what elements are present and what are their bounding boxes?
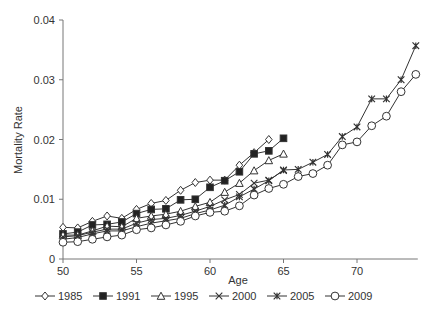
circle-marker bbox=[74, 238, 82, 246]
triangle-marker bbox=[265, 157, 273, 164]
circle-marker bbox=[221, 207, 229, 215]
circle-marker bbox=[309, 170, 317, 178]
legend: 198519911995200020052009 bbox=[35, 290, 372, 302]
circle-marker bbox=[206, 208, 214, 216]
y-tick-label: 0.02 bbox=[34, 134, 55, 146]
square-marker bbox=[236, 168, 243, 175]
circle-marker bbox=[118, 231, 126, 239]
x-tick-label: 55 bbox=[130, 265, 142, 277]
circle-marker bbox=[368, 122, 376, 130]
legend-label: 1985 bbox=[58, 290, 82, 302]
diamond-marker bbox=[104, 212, 111, 220]
star-marker bbox=[324, 151, 331, 158]
circle-marker bbox=[133, 226, 141, 234]
triangle-marker bbox=[221, 188, 229, 195]
diamond-marker bbox=[163, 196, 170, 204]
star-marker bbox=[339, 133, 346, 140]
legend-item-1985: 1985 bbox=[35, 290, 82, 302]
diamond-marker bbox=[192, 179, 199, 187]
square-marker bbox=[280, 135, 287, 142]
y-axis-label: Mortality Rate bbox=[12, 106, 24, 174]
circle-marker bbox=[353, 138, 361, 146]
y-tick-label: 0.03 bbox=[34, 74, 55, 86]
circle-marker bbox=[191, 212, 199, 220]
square-marker bbox=[177, 197, 184, 204]
x-axis-label: Age bbox=[228, 274, 248, 286]
legend-label: 2000 bbox=[232, 290, 256, 302]
series-line bbox=[63, 46, 416, 240]
series-2009 bbox=[59, 70, 420, 246]
circle-marker bbox=[147, 224, 155, 232]
legend-item-2000: 2000 bbox=[209, 290, 256, 302]
circle-marker bbox=[177, 217, 185, 225]
star-marker bbox=[398, 76, 405, 83]
x-tick-label: 60 bbox=[204, 265, 216, 277]
circle-marker bbox=[294, 173, 302, 181]
legend-label: 1991 bbox=[116, 290, 140, 302]
square-marker bbox=[221, 177, 228, 184]
triangle-marker bbox=[250, 167, 258, 174]
series-2005 bbox=[60, 42, 419, 242]
square-marker bbox=[100, 293, 107, 300]
circle-marker bbox=[331, 292, 339, 300]
circle-marker bbox=[324, 161, 332, 169]
y-tick-label: 0.01 bbox=[34, 193, 55, 205]
square-marker bbox=[207, 184, 214, 191]
circle-marker bbox=[397, 88, 405, 96]
circle-marker bbox=[103, 233, 111, 241]
circle-marker bbox=[338, 141, 346, 149]
legend-label: 2009 bbox=[348, 290, 372, 302]
diamond-marker bbox=[266, 136, 273, 144]
mortality-chart: 00.010.020.030.045055606570 Mortality Ra… bbox=[0, 0, 432, 318]
legend-label: 2005 bbox=[290, 290, 314, 302]
triangle-marker bbox=[280, 150, 288, 157]
square-marker bbox=[192, 196, 199, 203]
square-marker bbox=[251, 151, 258, 158]
diamond-marker bbox=[42, 292, 49, 300]
legend-item-2009: 2009 bbox=[325, 290, 372, 302]
y-tick-label: 0 bbox=[49, 253, 55, 265]
star-marker bbox=[354, 124, 361, 131]
legend-label: 1995 bbox=[174, 290, 198, 302]
circle-marker bbox=[162, 221, 170, 229]
y-tick-label: 0.04 bbox=[34, 14, 55, 26]
circle-marker bbox=[89, 235, 97, 243]
square-marker bbox=[266, 148, 273, 155]
circle-marker bbox=[265, 185, 273, 193]
legend-item-1991: 1991 bbox=[93, 290, 140, 302]
legend-item-1995: 1995 bbox=[151, 290, 198, 302]
circle-marker bbox=[383, 112, 391, 120]
circle-marker bbox=[280, 180, 288, 188]
x-tick-label: 50 bbox=[57, 265, 69, 277]
series-group bbox=[59, 42, 420, 246]
diamond-marker bbox=[207, 176, 214, 184]
circle-marker bbox=[236, 202, 244, 210]
circle-marker bbox=[250, 191, 258, 199]
x-tick-label: 70 bbox=[351, 265, 363, 277]
circle-marker bbox=[412, 70, 420, 78]
legend-item-2005: 2005 bbox=[267, 290, 314, 302]
x-tick-label: 65 bbox=[277, 265, 289, 277]
star-marker bbox=[413, 42, 420, 49]
star-marker bbox=[310, 159, 317, 166]
series-1991 bbox=[60, 135, 287, 237]
circle-marker bbox=[59, 238, 67, 246]
diamond-marker bbox=[177, 186, 184, 194]
